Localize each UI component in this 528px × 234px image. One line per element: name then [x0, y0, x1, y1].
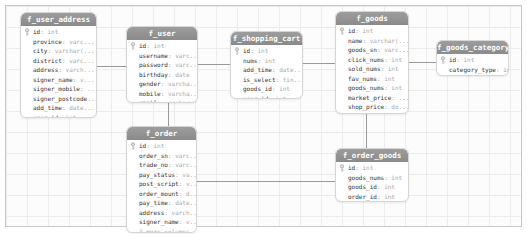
table-column[interactable]: province: varc...: [21, 37, 96, 47]
table-column[interactable]: add_time: date...: [21, 103, 96, 113]
column-name: email: [139, 99, 157, 103]
table-column[interactable]: goods_id: int: [336, 182, 408, 192]
column-type: : date...: [62, 104, 95, 111]
more-columns-link[interactable]: 8 more columns...: [336, 112, 408, 115]
relation-user-order: [168, 102, 169, 126]
table-f-user-address[interactable]: f_user_address id: intprovince: varc...c…: [20, 12, 97, 118]
column-name: district: [33, 57, 62, 64]
column-name: signer_name: [139, 218, 179, 225]
column-name: goods_id: [243, 85, 272, 92]
table-column[interactable]: mobile: varcha...: [127, 89, 197, 99]
relation-order-order-goods: [197, 181, 335, 182]
table-column[interactable]: name: varchar(...: [336, 36, 408, 46]
table-column[interactable]: user_id: int: [21, 113, 96, 119]
column-list: id: intname: varchar(...goods_sn: varc..…: [336, 25, 408, 114]
table-column[interactable]: gender: varcha...: [127, 79, 197, 89]
table-column[interactable]: goods_nums: int: [336, 83, 408, 93]
primary-key-column[interactable]: id: int: [336, 163, 408, 173]
table-f-goods-category[interactable]: f_goods_category id: intcategory_type: i…: [436, 40, 509, 76]
primary-key-column[interactable]: id: int: [336, 26, 408, 36]
table-column[interactable]: goods_sn: varc...: [336, 45, 408, 55]
column-list: id: intgoods_nums: intgoods_id: intorder…: [336, 162, 408, 202]
table-title: f_goods: [336, 12, 408, 25]
table-column[interactable]: password: varc...: [127, 60, 197, 70]
table-column[interactable]: order_id: int: [336, 192, 408, 202]
table-column[interactable]: nums: int: [231, 56, 302, 66]
table-column[interactable]: address: varch...: [127, 208, 196, 218]
table-column[interactable]: fav_nums: int: [336, 74, 408, 84]
column-type: : varc...: [168, 152, 196, 159]
column-name: province: [33, 38, 62, 45]
column-name: city: [33, 47, 47, 54]
column-type: : int: [58, 114, 76, 119]
table-f-order[interactable]: f_order id: intorder_sn: varc...trade_no…: [126, 126, 197, 233]
column-type: : int: [377, 183, 395, 190]
table-column[interactable]: address: varch...: [21, 65, 96, 75]
primary-key-column[interactable]: id: int: [21, 27, 96, 37]
key-icon: [24, 28, 30, 36]
table-column[interactable]: add_time: date...: [231, 65, 302, 75]
column-type: : varc...: [62, 38, 95, 45]
table-column[interactable]: pay_time: date...: [127, 198, 196, 208]
table-column[interactable]: signer_name: v...: [127, 217, 196, 227]
table-column[interactable]: category_type: int: [437, 65, 508, 75]
table-column[interactable]: post_script: v...: [127, 179, 196, 189]
column-name: shop_price: [348, 103, 384, 110]
table-column[interactable]: signer_name: v...: [21, 75, 96, 85]
column-name: category_front_: [449, 75, 503, 76]
table-column[interactable]: category_front_...: [437, 74, 508, 76]
table-column[interactable]: user_id: int: [231, 94, 302, 100]
table-column[interactable]: district: varc...: [21, 56, 96, 66]
table-column[interactable]: click_nums: int: [336, 55, 408, 65]
key-icon: [130, 42, 136, 50]
table-column[interactable]: email: varchar...: [127, 98, 197, 103]
table-title: f_user_address: [21, 13, 96, 26]
table-column[interactable]: trade_no: varc...: [127, 160, 196, 170]
table-f-goods[interactable]: f_goods id: intname: varchar(...goods_sn…: [335, 11, 409, 114]
table-column[interactable]: order_mount: d...: [127, 189, 196, 199]
table-column[interactable]: goods_id: int: [231, 84, 302, 94]
table-column[interactable]: username: varc...: [127, 51, 197, 61]
table-title: f_order_goods: [336, 149, 408, 162]
column-type: : v...: [179, 218, 196, 225]
table-column[interactable]: pay_status: va...: [127, 170, 196, 180]
primary-key-column[interactable]: id: int: [127, 141, 196, 151]
column-type: : int: [384, 56, 402, 63]
column-type: : int: [377, 193, 395, 200]
primary-key-column[interactable]: id: int: [127, 41, 197, 51]
key-icon: [234, 47, 240, 55]
column-name: goods_sn: [348, 46, 377, 53]
table-f-shopping-cart[interactable]: f_shopping_cart id: intnums: intadd_time…: [230, 31, 303, 99]
column-type: : int: [257, 57, 275, 64]
table-column[interactable]: signer_postcode...: [21, 94, 96, 104]
table-column[interactable]: sold_nums: int: [336, 64, 408, 74]
table-column[interactable]: order_sn: varc...: [127, 151, 196, 161]
table-column[interactable]: goods_nums: int: [336, 173, 408, 183]
table-f-user[interactable]: f_user id: intusername: varc...password:…: [126, 26, 198, 103]
column-type: : varc...: [62, 57, 95, 64]
table-column[interactable]: is_select: tin...: [231, 75, 302, 85]
column-type: : va...: [175, 171, 196, 178]
table-column[interactable]: signer_mobile: ...: [21, 84, 96, 94]
column-type: : int: [250, 47, 268, 54]
column-type: : varc...: [168, 61, 197, 68]
primary-key-column[interactable]: id: int: [231, 46, 302, 56]
table-f-order-goods[interactable]: f_order_goods id: intgoods_nums: intgood…: [335, 148, 409, 202]
primary-key-column[interactable]: id: int: [437, 55, 508, 65]
column-type: : int: [146, 142, 164, 149]
table-title: f_goods_category: [437, 41, 508, 54]
column-name: add_time: [33, 104, 62, 111]
table-column[interactable]: birthday: date: [127, 70, 197, 80]
table-column[interactable]: city: varchar(...: [21, 46, 96, 56]
column-type: : varch...: [58, 66, 94, 73]
table-column[interactable]: market_price: ...: [336, 93, 408, 103]
more-columns-link[interactable]: 3 more columns...: [127, 227, 196, 234]
column-name: sold_nums: [348, 65, 381, 72]
column-name: click_nums: [348, 56, 384, 63]
key-icon: [339, 164, 345, 172]
column-name: user_id: [33, 114, 58, 119]
column-name: mobile: [139, 90, 161, 97]
column-type: : int: [355, 164, 373, 171]
table-column[interactable]: shop_price: do...: [336, 102, 408, 112]
column-type: : int: [40, 28, 58, 35]
